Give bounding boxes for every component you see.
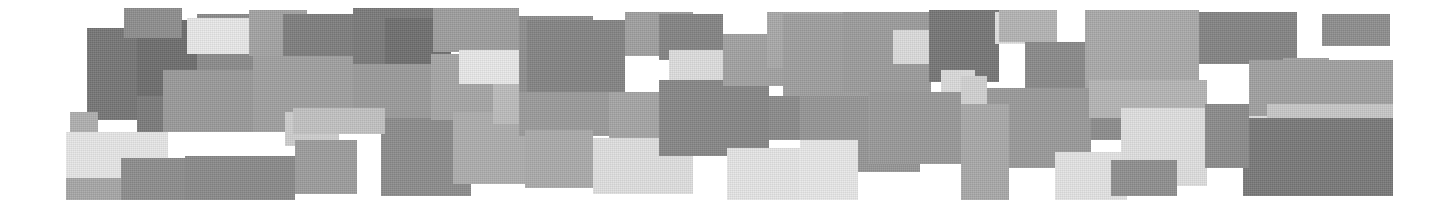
tile-r9-c2-mid <box>999 10 1057 42</box>
tile-r4-c1-mid <box>433 8 519 52</box>
tile-r2-c6-midgray <box>295 140 357 194</box>
tile-r11-c3-isolated <box>1322 14 1390 46</box>
tile-r1-c1-dark <box>87 28 137 120</box>
tile-r12-c4-darkblock <box>1243 118 1393 196</box>
tile-r11-c2-dark <box>1199 12 1297 64</box>
mosaic-image <box>0 0 1452 208</box>
tile-r2-c5-darkband <box>185 156 295 200</box>
tile-r7-c5-nearwhite <box>800 140 858 200</box>
tile-r5-c6-midlight2 <box>609 92 665 138</box>
tile-r11-c1-midlight <box>1089 10 1199 80</box>
tile-r1-c11-dark <box>121 158 187 200</box>
tile-r2-c1-dark <box>124 8 182 38</box>
tile-r9-c7-midband <box>961 104 1009 200</box>
tile-r8-c5-midwide <box>869 92 965 164</box>
tile-r3-c5-lightband <box>293 108 385 134</box>
tile-r4-c2-nearwhite <box>459 50 521 84</box>
tile-r1-c5-nearwhite <box>187 18 249 54</box>
tile-r12-c5-darkedge <box>1205 104 1249 168</box>
tile-r11-c7-darksmall <box>1111 160 1177 196</box>
tile-r5-c2-darkwide <box>527 20 625 96</box>
tile-r9-c3-darkmid <box>1025 42 1087 90</box>
tile-r5-c4-midlight <box>525 130 593 188</box>
tile-r6-c4-dark <box>659 80 769 156</box>
tile-r6-c3-light <box>669 50 727 84</box>
